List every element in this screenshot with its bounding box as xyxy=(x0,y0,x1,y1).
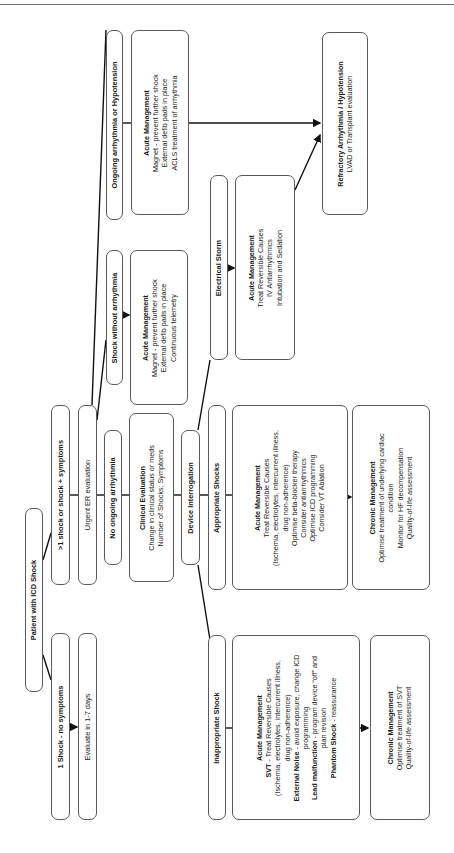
inappropriate-chronic-management-node: Chronic Management Optimise treatment of… xyxy=(370,635,430,820)
node-title: Chronic Management xyxy=(386,685,395,770)
node-line: (Ischemia, electrolytes, intercurrent il… xyxy=(273,654,282,801)
node-line: Quality-of-life assessment xyxy=(405,685,414,770)
clinical-evaluation-node: Clinical Evaluation Change in clinical s… xyxy=(129,413,174,582)
node-label: Urgent ER evaluation xyxy=(83,460,92,530)
refractory-arrhythmia-node: Refractory Arrhythmia / Hypotension LVAD… xyxy=(322,32,368,215)
node-label: Patient with ICD Shock xyxy=(29,560,38,641)
node-label: No ongoing arrhythmia xyxy=(108,457,117,538)
node-line: drug non-adherence) xyxy=(281,430,290,566)
node-line: ACLS treatment of arrhythmia xyxy=(169,74,178,172)
urgent-er-evaluation-node: Urgent ER evaluation xyxy=(78,405,97,585)
node-label: Ongoing arrhythmia or Hypotension xyxy=(110,62,119,189)
node-title: Refractory Arrhythmia / Hypotension xyxy=(336,61,345,187)
node-line: Magnet - prevent further shock xyxy=(151,74,160,172)
node-line: Optimise treatment of underlying cardiac xyxy=(377,433,386,562)
node-line: Optimise treatment of SVT xyxy=(395,685,404,770)
node-line: Number of Shocks; Symptoms xyxy=(156,445,165,550)
node-line: Optimise beta-blocker therapy xyxy=(290,430,299,566)
appropriate-chronic-management-node: Chronic Management Optimise treatment of… xyxy=(352,405,430,590)
page-top-rule xyxy=(0,4,454,5)
ongoing-arrhythmia-node: Ongoing arrhythmia or Hypotension xyxy=(106,30,123,220)
node-label: Device Interrogation xyxy=(186,462,195,533)
evaluate-1-7-days-node: Evaluate in 1-7 days xyxy=(78,633,97,820)
device-interrogation-node: Device Interrogation xyxy=(181,430,200,565)
appropriate-acute-management-node: Acute Management Treat Reversible Causes… xyxy=(232,405,348,590)
node-line: Lead malfunction - program device “off” … xyxy=(310,654,319,801)
node-line: Continuous telemetry xyxy=(168,279,177,377)
node-line: LVAD or Transplant evaluation xyxy=(345,61,354,187)
node-line: Monitor for HF decompensation xyxy=(396,433,405,562)
node-label: 1 Shock - no symptoms xyxy=(56,685,65,768)
inappropriate-shock-node: Inappropriate Shock xyxy=(208,635,226,820)
node-label: Electrical Storm xyxy=(214,239,223,295)
electrical-storm-acute-node: Acute Management Treat Reversible Causes… xyxy=(235,175,295,360)
node-line: External defib pads in place xyxy=(159,279,168,377)
node-line: SVT - Treat Reversible Causes xyxy=(264,654,273,801)
node-line: Intubation and Sedation xyxy=(274,228,283,307)
node-label: Evaluate in 1-7 days xyxy=(83,693,92,760)
node-line: IV Antiarrhythmics xyxy=(265,228,274,307)
node-title: Acute Management xyxy=(255,654,264,801)
node-line: condition xyxy=(386,433,395,562)
node-line: Quality-of-life assessment xyxy=(405,433,414,562)
node-title: Acute Management xyxy=(253,430,262,566)
node-line: External defib pads in place xyxy=(160,74,169,172)
node-line: Treat Reversible Causes xyxy=(256,228,265,307)
patient-icd-shock-node: Patient with ICD Shock xyxy=(25,508,43,692)
node-label: >1 shock or shock + symptoms xyxy=(56,440,65,550)
one-shock-no-symptoms-node: 1 Shock - no symptoms xyxy=(51,633,70,820)
node-label: Appropriate Shocks xyxy=(212,462,221,532)
shock-without-arrhythmia-acute-node: Acute Management Magnet - prevent furthe… xyxy=(130,250,188,405)
inappropriate-acute-management-node: Acute Management SVT - Treat Reversible … xyxy=(232,635,360,820)
node-line: drug non-adherence) xyxy=(282,654,291,801)
no-ongoing-arrhythmia-node: No ongoing arrhythmia xyxy=(104,430,122,565)
node-line: Consider VT Ablation xyxy=(318,430,327,566)
node-title: Clinical Evaluation xyxy=(138,445,147,550)
node-line: programming xyxy=(301,654,310,801)
node-title: Chronic Management xyxy=(368,433,377,562)
node-line: (Ischemia, electrolytes, intercurrent il… xyxy=(272,430,281,566)
ongoing-arrhythmia-acute-node: Acute Management Magnet - prevent furthe… xyxy=(131,30,189,215)
node-label: Shock without arrhythmia xyxy=(110,272,119,363)
shock-without-arrhythmia-node: Shock without arrhythmia xyxy=(106,250,123,385)
node-line: External Noise - avoid exposure, change … xyxy=(291,654,300,801)
electrical-storm-node: Electrical Storm xyxy=(210,175,228,360)
node-line: plan revision xyxy=(319,654,328,801)
node-line: Phantom Shock - reassurance xyxy=(328,654,337,801)
node-line: Treat Reversible Causes xyxy=(262,430,271,566)
node-line: Consider antiarrhythmics xyxy=(299,430,308,566)
node-label: Inappropriate Shock xyxy=(212,692,221,763)
node-title: Acute Management xyxy=(247,228,256,307)
appropriate-shocks-node: Appropriate Shocks xyxy=(208,405,226,590)
multiple-shocks-node: >1 shock or shock + symptoms xyxy=(51,405,70,585)
node-title: Acute Management xyxy=(141,279,150,377)
node-line: Magnet - prevent further shock xyxy=(150,279,159,377)
node-title: Acute Management xyxy=(142,74,151,172)
node-line: Optimise ICD programming xyxy=(308,430,317,566)
node-line: Change in clinical status or meds xyxy=(147,445,156,550)
